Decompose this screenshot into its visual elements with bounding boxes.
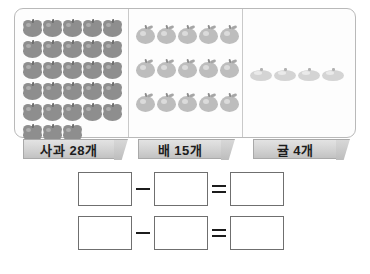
tangerine-stem (308, 68, 311, 70)
apple-icon (103, 81, 123, 101)
apple-icon (83, 18, 103, 38)
pear-icon (136, 58, 157, 79)
apple-icon (63, 60, 83, 80)
pear-row (136, 92, 241, 113)
pear-body (220, 28, 239, 44)
pear-body (157, 62, 176, 78)
fruit-count-panel (14, 8, 356, 138)
label-ribbon-apples: 사과 28개 (23, 139, 115, 159)
answer-box-operand-b[interactable] (154, 216, 208, 250)
apple-icon (83, 60, 103, 80)
pear-body (220, 62, 239, 78)
pear-body (178, 28, 197, 44)
apple-icon (43, 81, 63, 101)
label-ribbon-tangerines: 귤 4개 (253, 139, 337, 159)
equals-bar-bottom (212, 235, 226, 237)
pear-icon (157, 92, 178, 113)
apple-icon (103, 60, 123, 80)
pear-row (136, 58, 241, 79)
pear-leaf (189, 59, 195, 63)
apple-row (23, 18, 128, 38)
apple-icon (43, 39, 63, 59)
tangerine-icon (298, 67, 322, 83)
apple-icon (23, 60, 43, 80)
tangerine-icon (274, 67, 298, 83)
apple-icon (103, 18, 123, 38)
apple-icon (43, 60, 63, 80)
apple-icon (83, 102, 103, 122)
equation-row (78, 216, 284, 250)
pear-body (199, 62, 218, 78)
apple-icon (43, 18, 63, 38)
pear-leaf (210, 25, 216, 29)
label-text-pears: 배 15개 (158, 140, 203, 159)
pear-body (157, 96, 176, 112)
equals-bar-bottom (212, 191, 226, 193)
apple-icon (63, 102, 83, 122)
pear-leaf (168, 93, 174, 97)
answer-box-operand-b[interactable] (154, 172, 208, 206)
apple-icon (23, 102, 43, 122)
pear-body (136, 28, 155, 44)
pear-body (157, 28, 176, 44)
tangerine-body (250, 70, 272, 81)
pear-icon (178, 58, 199, 79)
fruit-label-row: 사과 28개 배 15개 귤 4개 (14, 139, 356, 161)
tangerine-column (242, 9, 355, 137)
pear-body (220, 96, 239, 112)
ribbon-fold (221, 139, 235, 160)
pear-body (199, 28, 218, 44)
pear-icon (178, 24, 199, 45)
pear-icon (220, 92, 241, 113)
apple-icon (103, 39, 123, 59)
pear-icon (220, 58, 241, 79)
pear-leaf (231, 25, 237, 29)
tangerine-stem (284, 68, 287, 70)
tangerine-body (298, 70, 320, 81)
equals-bar-top (212, 185, 226, 187)
pear-leaf (231, 93, 237, 97)
apple-grid (15, 18, 128, 144)
equals-sign-icon (208, 216, 230, 250)
pear-body (178, 96, 197, 112)
tangerine-body (322, 70, 344, 81)
tangerine-row (250, 67, 355, 83)
pear-icon (199, 92, 220, 113)
minus-bar (136, 188, 150, 190)
pear-leaf (147, 93, 153, 97)
tangerine-icon (250, 67, 274, 83)
apple-row (23, 39, 128, 59)
pear-body (178, 62, 197, 78)
apple-icon (63, 18, 83, 38)
minus-sign-icon (132, 216, 154, 250)
ribbon-fold (114, 139, 128, 160)
pear-row (136, 24, 241, 45)
pear-leaf (147, 59, 153, 63)
answer-box-operand-a[interactable] (78, 216, 132, 250)
minus-bar (136, 232, 150, 234)
apple-icon (83, 39, 103, 59)
apple-column (15, 9, 128, 137)
equals-bar-top (212, 229, 226, 231)
pear-icon (136, 92, 157, 113)
pear-body (136, 96, 155, 112)
ribbon-fold (336, 139, 350, 160)
equation-row (78, 172, 284, 206)
answer-box-result[interactable] (230, 216, 284, 250)
pear-leaf (147, 25, 153, 29)
pear-leaf (189, 25, 195, 29)
answer-box-operand-a[interactable] (78, 172, 132, 206)
apple-row (23, 60, 128, 80)
equals-sign-icon (208, 172, 230, 206)
pear-leaf (210, 59, 216, 63)
pear-icon (199, 58, 220, 79)
tangerine-stem (332, 68, 335, 70)
apple-icon (103, 102, 123, 122)
pear-icon (199, 24, 220, 45)
apple-icon (83, 81, 103, 101)
pear-icon (178, 92, 199, 113)
pear-leaf (189, 93, 195, 97)
apple-row (23, 102, 128, 122)
answer-box-result[interactable] (230, 172, 284, 206)
apple-icon (23, 81, 43, 101)
